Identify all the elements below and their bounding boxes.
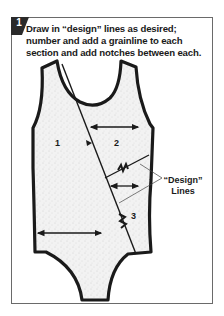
swimsuit-diagram bbox=[0, 0, 224, 316]
garment-outline bbox=[33, 61, 153, 300]
section-label-3: 3 bbox=[131, 211, 136, 221]
section-label-1: 1 bbox=[55, 138, 60, 148]
design-lines-callout: “Design” Lines bbox=[163, 175, 203, 197]
section-label-2: 2 bbox=[114, 138, 119, 148]
callout-line-2: Lines bbox=[163, 186, 203, 197]
callout-line-1: “Design” bbox=[163, 175, 203, 186]
